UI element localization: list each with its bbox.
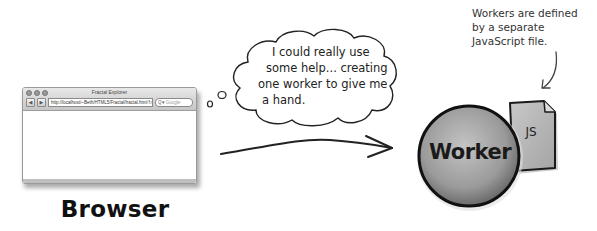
thought-dot-large	[218, 92, 226, 99]
thought-dot-small	[208, 101, 213, 107]
annotation-line: JavaScript file.	[472, 34, 597, 48]
arrow-line	[221, 140, 392, 154]
thought-line: a hand.	[258, 92, 390, 108]
annotation-line: by a separate	[472, 20, 597, 34]
thought-line: some help... creating	[258, 60, 390, 76]
js-file-label: JS	[516, 125, 546, 139]
annotation-line: Workers are defined	[472, 6, 597, 20]
thought-line: I could really use	[258, 44, 390, 60]
annotation-arrow-line	[543, 52, 556, 88]
thought-bubble-text: I could really use some help... creating…	[258, 44, 390, 108]
annotation-arrow-head	[542, 80, 550, 88]
thought-line: one worker to give me	[258, 76, 390, 92]
worker-label: Worker	[418, 140, 522, 164]
annotation-text: Workers are defined by a separate JavaSc…	[472, 6, 597, 48]
